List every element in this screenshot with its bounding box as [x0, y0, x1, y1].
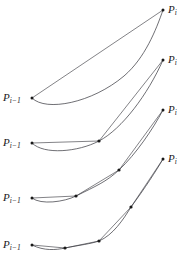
row-2-start-label: Pi−1 [3, 136, 21, 150]
row-4-chord [32, 159, 163, 248]
row-4-start-label: Pi−1 [3, 238, 21, 252]
row-3-start-label-base: P [3, 191, 10, 203]
row-4-interior-point-3 [129, 205, 132, 208]
row-1-start-label-sub: i−1 [10, 96, 21, 105]
row-4-start-label-sub: i−1 [10, 243, 21, 252]
row-4-end-label-sub: i [175, 157, 177, 166]
row-3-start-label-sub: i−1 [10, 196, 21, 205]
curve-subdivision-figure: Pi−1 Pi−1 Pi−1 Pi−1 Pi Pi Pi Pi [0, 0, 185, 265]
row-4-end-point [162, 158, 165, 161]
row-3-end-label-sub: i [175, 108, 177, 117]
row-3-start-point [31, 197, 34, 200]
row-2-end-label-base: P [168, 53, 175, 65]
row-4-end-label: Pi [168, 152, 177, 166]
row-1-start-label: Pi−1 [3, 91, 21, 105]
row-2-start-label-base: P [3, 136, 10, 148]
row-3-end-label-base: P [168, 103, 175, 115]
row-3-end-point [162, 109, 165, 112]
row-2-end-label-sub: i [175, 58, 177, 67]
row-2-end-label: Pi [168, 53, 177, 67]
row-2-end-point [162, 59, 165, 62]
row-2-start-label-sub: i−1 [10, 141, 21, 150]
row-1-start-label-base: P [3, 91, 10, 103]
row-3-interior-point-2 [117, 168, 120, 171]
row-4-interior-point-2 [97, 239, 100, 242]
row-1-end-label-sub: i [175, 8, 177, 17]
row-1-group [31, 9, 165, 105]
row-1-end-label: Pi [168, 3, 177, 17]
row-1-end-point [162, 9, 165, 12]
row-4-end-label-base: P [168, 152, 175, 164]
row-4-curve [32, 159, 163, 250]
row-2-start-point [31, 142, 34, 145]
row-4-group [31, 158, 165, 250]
row-3-start-label: Pi−1 [3, 191, 21, 205]
row-4-interior-point-1 [63, 246, 66, 249]
row-1-curve [32, 10, 163, 105]
row-1-start-point [31, 97, 34, 100]
row-4-start-label-base: P [3, 238, 10, 250]
row-3-end-label: Pi [168, 103, 177, 117]
figure-canvas [0, 0, 185, 265]
row-4-start-point [31, 244, 34, 247]
row-2-chord [32, 60, 163, 143]
row-3-interior-point-1 [74, 194, 77, 197]
row-2-interior-point [97, 139, 100, 142]
row-1-end-label-base: P [168, 3, 175, 15]
